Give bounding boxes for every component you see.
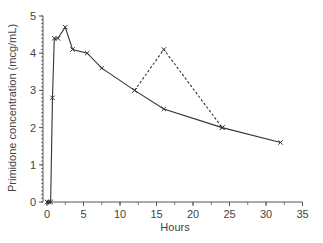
x-tick-label: 0 xyxy=(44,208,50,220)
x-tick-label: 15 xyxy=(150,208,162,220)
y-tick-label: 3 xyxy=(30,84,36,96)
y-tick-label: 4 xyxy=(30,47,36,59)
y-tick-label: 2 xyxy=(30,122,36,134)
data-point-marker xyxy=(132,88,136,92)
x-tick-label: 25 xyxy=(223,208,235,220)
y-axis-title: Primidone concentration (mcg/mL) xyxy=(6,24,18,192)
x-axis-title: Hours xyxy=(160,221,190,233)
axes: 01234505101520253035 xyxy=(30,10,309,220)
x-tick-label: 10 xyxy=(114,208,126,220)
y-tick-label: 5 xyxy=(30,10,36,22)
data-point-marker xyxy=(100,66,104,70)
y-tick-label: 0 xyxy=(30,196,36,208)
x-tick-label: 30 xyxy=(260,208,272,220)
x-tick-label: 5 xyxy=(80,208,86,220)
series xyxy=(45,25,283,204)
x-tick-label: 35 xyxy=(296,208,308,220)
y-tick-label: 1 xyxy=(30,159,36,171)
series-line-measured xyxy=(47,27,281,202)
chart: 01234505101520253035 Hours Primidone con… xyxy=(0,0,323,243)
x-tick-label: 20 xyxy=(187,208,199,220)
data-point-marker xyxy=(162,47,166,51)
series-line-deviation xyxy=(135,49,223,127)
